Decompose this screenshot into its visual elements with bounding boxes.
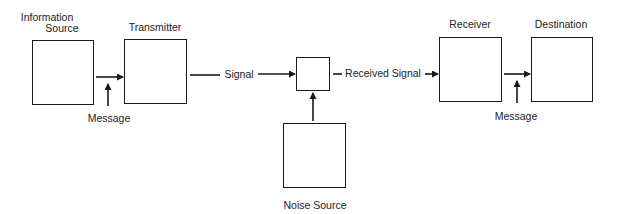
transmitter-label: Transmitter [125,21,185,33]
received-signal-label: Received Signal [342,67,424,79]
destination-label: Destination [524,18,598,30]
noise-source-label: Noise Source [280,199,350,211]
information-source-label-line2: Source [17,22,107,34]
message-left-label: Message [84,112,134,124]
receiver-label: Receiver [440,18,500,30]
message-right-label: Message [491,110,541,122]
signal-label: Signal [221,68,257,80]
